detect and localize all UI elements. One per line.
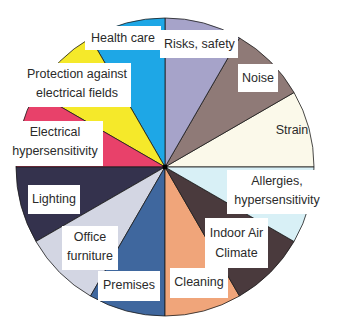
pie-center-dot: [163, 165, 168, 170]
label-text: Premises: [102, 275, 156, 295]
label-protection-electrical-fields: Protection against electrical fields: [23, 63, 131, 107]
label-text-line1: Office: [66, 228, 114, 247]
label-text-line2: hypersensitivity: [231, 191, 323, 210]
label-text: Risks, safety: [164, 34, 234, 54]
label-text-line2: hypersensitivity: [11, 142, 99, 161]
label-text-line1: Electrical: [11, 123, 99, 142]
label-lighting: Lighting: [28, 185, 80, 214]
label-text-line2: furniture: [66, 247, 114, 266]
label-text: Cleaning: [174, 272, 224, 292]
label-text-line1: Protection against: [27, 65, 127, 84]
label-allergies: Allergies, hypersensitivity: [227, 170, 327, 214]
label-text-line2: Climate: [209, 243, 264, 263]
label-premises: Premises: [98, 271, 160, 301]
label-text-line2: electrical fields: [27, 84, 127, 103]
label-noise: Noise: [238, 64, 278, 92]
label-electrical-hypersensitivity: Electrical hypersensitivity: [7, 121, 103, 166]
label-office-furniture: Office furniture: [62, 226, 118, 270]
label-text: Strain: [266, 120, 318, 140]
label-cleaning: Cleaning: [170, 268, 228, 298]
label-strain: Strain: [262, 118, 322, 142]
label-text: Noise: [242, 68, 274, 88]
label-text-line1: Indoor Air: [209, 223, 264, 243]
label-health-care: Health care: [85, 26, 161, 50]
label-risks-safety: Risks, safety: [160, 30, 238, 58]
label-indoor-air-climate: Indoor Air Climate: [205, 218, 268, 268]
label-text: Health care: [89, 28, 157, 48]
label-text-line1: Allergies,: [231, 172, 323, 191]
label-text: Lighting: [32, 189, 76, 209]
